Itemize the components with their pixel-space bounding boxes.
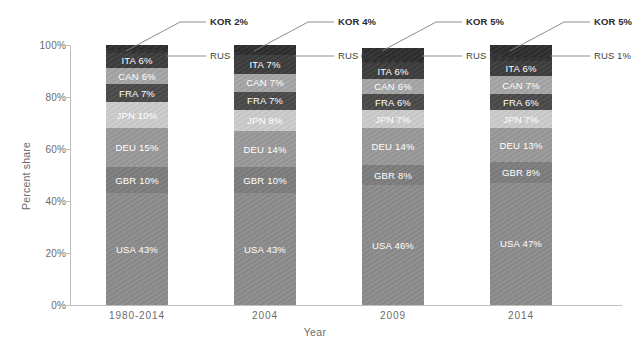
segment-label: CAN 7% — [246, 77, 284, 88]
x-tick-1980-2014: 1980-2014 — [77, 310, 197, 321]
y-tickmark-100 — [65, 45, 70, 46]
segment-deu-2009[interactable]: DEU 14% — [362, 128, 424, 164]
segment-usa-2014[interactable]: USA 47% — [490, 183, 552, 305]
segment-jpn-2014[interactable]: JPN 7% — [490, 110, 552, 128]
bar-1980-2014[interactable]: USA 43%GBR 10%DEU 15%JPN 10%FRA 7%CAN 6%… — [106, 45, 168, 305]
callout-rus-2009: RUS 1% — [466, 50, 503, 61]
y-tickmark-60 — [65, 149, 70, 150]
segment-label: FRA 7% — [119, 88, 155, 99]
segment-deu-1980-2014[interactable]: DEU 15% — [106, 128, 168, 167]
x-tick-2009: 2009 — [333, 310, 453, 321]
segment-label: GBR 10% — [243, 175, 287, 186]
segment-gbr-1980-2014[interactable]: GBR 10% — [106, 167, 168, 193]
segment-deu-2004[interactable]: DEU 14% — [234, 131, 296, 167]
segment-label: DEU 14% — [371, 141, 414, 152]
segment-label: GBR 8% — [374, 170, 412, 181]
segment-label: CAN 6% — [118, 71, 156, 82]
segment-label: FRA 6% — [375, 97, 411, 108]
segment-jpn-2004[interactable]: JPN 8% — [234, 110, 296, 131]
segment-gbr-2004[interactable]: GBR 10% — [234, 167, 296, 193]
segment-jpn-1980-2014[interactable]: JPN 10% — [106, 102, 168, 128]
bar-2009[interactable]: USA 46%GBR 8%DEU 14%JPN 7%FRA 6%CAN 6%IT… — [362, 45, 424, 305]
segment-label: DEU 13% — [499, 140, 542, 151]
bar-2004[interactable]: USA 43%GBR 10%DEU 14%JPN 8%FRA 7%CAN 7%I… — [234, 45, 296, 305]
segment-usa-2009[interactable]: USA 46% — [362, 185, 424, 305]
y-tickmark-20 — [65, 253, 70, 254]
x-axis-line — [70, 305, 622, 306]
segment-can-2009[interactable]: CAN 6% — [362, 79, 424, 95]
bar-2014[interactable]: USA 47%GBR 8%DEU 13%JPN 7%FRA 6%CAN 7%IT… — [490, 45, 552, 305]
callout-kor-2009: KOR 5% — [466, 16, 504, 27]
callout-rus-2004: RUS 0% — [338, 50, 375, 61]
segment-label: USA 46% — [372, 240, 414, 251]
segment-fra-2009[interactable]: FRA 6% — [362, 94, 424, 110]
segment-jpn-2009[interactable]: JPN 7% — [362, 110, 424, 128]
segment-label: JPN 7% — [503, 114, 539, 125]
y-tickmark-40 — [65, 201, 70, 202]
segment-label: FRA 6% — [503, 97, 539, 108]
segment-ita-1980-2014[interactable]: ITA 6% — [106, 53, 168, 69]
segment-rus-2009[interactable]: RUS 1% — [362, 61, 424, 64]
segment-label: ITA 7% — [249, 59, 280, 70]
segment-label: USA 47% — [500, 238, 542, 249]
segment-label: GBR 10% — [115, 175, 159, 186]
segment-label: CAN 7% — [502, 80, 540, 91]
y-tick-100: 100% — [26, 40, 66, 51]
callout-rus-1980-2014: RUS 1% — [210, 50, 247, 61]
segment-fra-2004[interactable]: FRA 7% — [234, 92, 296, 110]
segment-label: DEU 14% — [243, 144, 286, 155]
segment-label: ITA 6% — [505, 63, 536, 74]
segment-fra-2014[interactable]: FRA 6% — [490, 94, 552, 110]
segment-label: USA 43% — [116, 244, 158, 255]
x-axis-title: Year — [0, 326, 630, 338]
callout-kor-1980-2014: KOR 2% — [210, 16, 248, 27]
segment-can-2004[interactable]: CAN 7% — [234, 74, 296, 92]
y-tick-60: 60% — [26, 144, 66, 155]
segment-label: CAN 6% — [374, 81, 412, 92]
callout-kor-2014: KOR 5% — [594, 16, 632, 27]
segment-kor-1980-2014[interactable]: KOR 2% — [106, 45, 168, 50]
segment-rus-1980-2014[interactable]: RUS 1% — [106, 50, 168, 53]
callout-rus-2014: RUS 1% — [594, 50, 631, 61]
y-axis-tick-labels: 0% 20% 40% 60% 80% 100% — [22, 0, 66, 354]
x-tick-2004: 2004 — [205, 310, 325, 321]
segment-label: FRA 7% — [247, 95, 283, 106]
segment-usa-1980-2014[interactable]: USA 43% — [106, 193, 168, 305]
segment-label: DEU 15% — [115, 142, 158, 153]
segment-ita-2014[interactable]: ITA 6% — [490, 61, 552, 77]
segment-can-1980-2014[interactable]: CAN 6% — [106, 68, 168, 84]
segment-label: JPN 7% — [375, 114, 411, 125]
segment-label: ITA 6% — [377, 66, 408, 77]
segment-gbr-2009[interactable]: GBR 8% — [362, 165, 424, 186]
y-tickmark-0 — [65, 305, 70, 306]
segment-deu-2014[interactable]: DEU 13% — [490, 128, 552, 162]
x-tick-2014: 2014 — [461, 310, 581, 321]
y-tick-40: 40% — [26, 196, 66, 207]
segment-label: JPN 8% — [247, 115, 283, 126]
y-tick-0: 0% — [26, 300, 66, 311]
segment-can-2014[interactable]: CAN 7% — [490, 76, 552, 94]
segment-label: JPN 10% — [116, 110, 157, 121]
segment-fra-1980-2014[interactable]: FRA 7% — [106, 84, 168, 102]
y-axis-line — [70, 45, 71, 305]
segment-ita-2009[interactable]: ITA 6% — [362, 63, 424, 79]
callout-kor-2004: KOR 4% — [338, 16, 376, 27]
segment-usa-2004[interactable]: USA 43% — [234, 193, 296, 305]
segment-label: USA 43% — [244, 244, 286, 255]
segment-label: ITA 6% — [121, 55, 152, 66]
y-tick-20: 20% — [26, 248, 66, 259]
y-tick-80: 80% — [26, 92, 66, 103]
segment-gbr-2014[interactable]: GBR 8% — [490, 162, 552, 183]
segment-label: GBR 8% — [502, 167, 540, 178]
y-tickmark-80 — [65, 97, 70, 98]
